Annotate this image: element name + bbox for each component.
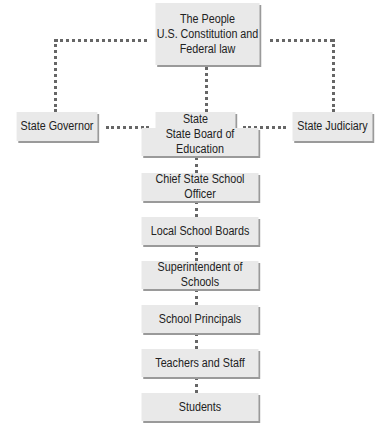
- connector-top-left-down: [54, 39, 57, 112]
- connector-top-center: [205, 67, 208, 112]
- top-line-2: U.S. Constitution and: [157, 27, 259, 42]
- box-superintendent-of-schools: Superintendent of Schools: [142, 261, 259, 289]
- chain-label: School Principals: [159, 312, 241, 327]
- box-state-governor: State Governor: [17, 112, 98, 141]
- connector-top-right: [270, 39, 333, 42]
- governor-label: State Governor: [21, 119, 94, 134]
- chain-label: Teachers and Staff: [155, 356, 244, 371]
- box-teachers-and-staff: Teachers and Staff: [142, 349, 259, 377]
- box-chief-state-school-officer: Chief State School Officer: [142, 173, 259, 201]
- connector-top-left: [55, 39, 147, 42]
- chain-label: State Board of Education: [142, 127, 259, 157]
- chain-label: Superintendent of Schools: [142, 260, 259, 290]
- top-line-1: The People: [180, 12, 235, 27]
- connector-chain: [195, 245, 198, 261]
- connector-chain: [195, 377, 198, 393]
- chain-label: Chief State School Officer: [142, 172, 259, 202]
- box-state-judiciary: State Judiciary: [293, 112, 373, 141]
- connector-top-right-down: [332, 39, 335, 112]
- box-local-school-boards: Local School Boards: [142, 217, 259, 245]
- box-school-principals: School Principals: [142, 305, 259, 333]
- top-line-3: Federal law: [180, 42, 236, 57]
- box-state-board-of-education: State Board of Education: [142, 128, 259, 156]
- connector-chain: [195, 201, 198, 217]
- chain-label: Local School Boards: [151, 224, 250, 239]
- chain-label: Students: [179, 400, 221, 415]
- judiciary-label: State Judiciary: [297, 119, 368, 134]
- box-the-people: The People U.S. Constitution and Federal…: [155, 3, 259, 65]
- connector-chain: [195, 157, 198, 173]
- connector-chain: [195, 333, 198, 349]
- org-chart: The People U.S. Constitution and Federal…: [0, 0, 389, 431]
- connector-chain: [195, 289, 198, 305]
- box-students: Students: [142, 393, 259, 421]
